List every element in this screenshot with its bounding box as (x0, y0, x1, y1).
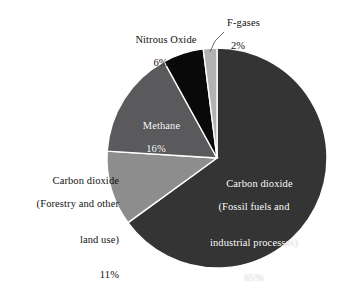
pie-chart: F-gases 2% Nitrous Oxide 6% Methane 16% … (0, 0, 338, 283)
slice-label-carbon-dioxide-forestry: Carbon dioxide (Forestry and other land … (2, 163, 119, 283)
slice-label-nitrous-oxide-percent: 6% (108, 57, 213, 69)
slice-label-nitrous-oxide: Nitrous Oxide 6% (108, 22, 213, 93)
slice-label-carbon-dioxide-forestry-line1: Carbon dioxide (53, 175, 119, 186)
slice-label-nitrous-oxide-name: Nitrous Oxide (135, 34, 196, 45)
slice-label-f-gases-name: F-gases (227, 17, 260, 28)
slice-label-carbon-dioxide-fossil-line3: industrial processes) (192, 237, 316, 249)
slice-label-carbon-dioxide-fossil-line2: (Fossil fuels and (192, 201, 316, 213)
slice-label-carbon-dioxide-fossil-line1: Carbon dioxide (226, 178, 292, 189)
slice-label-carbon-dioxide-fossil-fuels: Carbon dioxide (Fossil fuels and industr… (192, 166, 316, 283)
slice-label-carbon-dioxide-forestry-line2: (Forestry and other (2, 198, 119, 210)
slice-label-methane: Methane 16% (116, 108, 196, 179)
slice-label-carbon-dioxide-forestry-line3: land use) (2, 234, 119, 246)
slice-label-carbon-dioxide-forestry-percent: 11% (2, 269, 119, 281)
slice-label-carbon-dioxide-fossil-percent: 65% (192, 272, 316, 283)
slice-label-methane-name: Methane (143, 120, 180, 131)
slice-label-methane-percent: 16% (116, 143, 196, 155)
